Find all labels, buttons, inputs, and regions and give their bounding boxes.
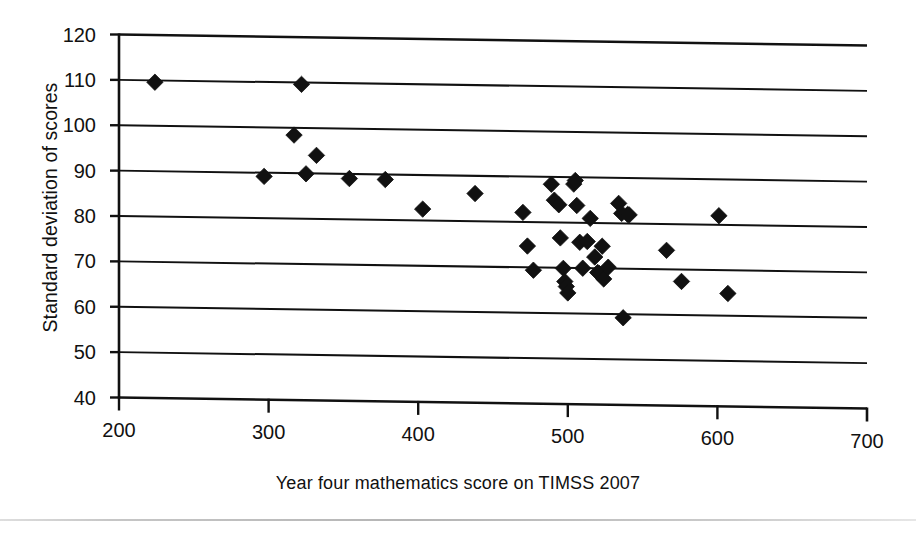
x-tick-label-300: 300 xyxy=(252,422,285,442)
x-tick-label-500: 500 xyxy=(551,426,584,446)
x-tick-label-400: 400 xyxy=(402,424,435,444)
figure: Standard deviation of scores 12011010090… xyxy=(0,0,916,533)
x-tick-label-700: 700 xyxy=(850,431,883,451)
x-tick-label-600: 600 xyxy=(701,428,734,448)
x-axis-title: Year four mathematics score on TIMSS 200… xyxy=(0,473,916,494)
x-tick-label-group: 200300400500600700 xyxy=(0,0,916,533)
page-divider-rule xyxy=(0,519,916,521)
x-tick-label-200: 200 xyxy=(102,420,135,440)
